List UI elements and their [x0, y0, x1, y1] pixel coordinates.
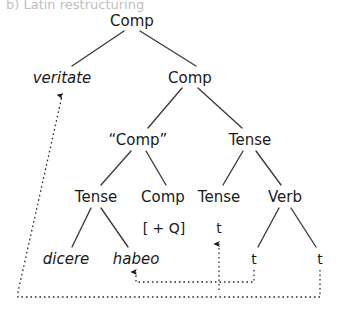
tree-node-tense-l1: Tense: [75, 190, 117, 205]
tree-node-tense-l2: Tense: [198, 190, 240, 205]
tree-node-trace-verb-1: t: [251, 252, 257, 266]
tree-node-comp-root: Comp: [110, 14, 154, 29]
tree-branch: [256, 151, 281, 185]
tree-branch: [148, 88, 182, 128]
tree-node-verb: Verb: [268, 190, 302, 205]
tree-branch: [101, 151, 131, 185]
tree-node-veritate: veritate: [33, 71, 92, 86]
tree-branch: [291, 208, 316, 247]
tree-branch: [223, 151, 243, 185]
tree-node-trace-verb-2: t: [317, 252, 323, 266]
tree-branch: [72, 31, 124, 66]
tree-node-feature-q: [ + Q]: [143, 221, 186, 235]
tree-node-comp-2: Comp: [168, 71, 212, 86]
tree-lines-svg: [0, 0, 340, 317]
tree-branch: [140, 31, 196, 66]
tree-branch: [258, 208, 279, 247]
tree-node-dicere: dicere: [43, 252, 90, 267]
tree-node-comp-quoted: “Comp”: [109, 133, 168, 148]
tree-branch: [72, 208, 91, 247]
tree-node-habeo: habeo: [113, 252, 160, 267]
movement-arrow: [136, 270, 254, 282]
tree-node-trace-tense: t: [216, 221, 222, 235]
tree-branch: [198, 88, 242, 128]
tree-node-tense-right: Tense: [229, 133, 271, 148]
tree-branch: [101, 208, 128, 247]
syntax-tree-figure: b) Latin restructuring CompveritateComp“…: [0, 0, 340, 317]
tree-node-comp-l1: Comp: [141, 190, 185, 205]
tree-branch: [146, 151, 166, 185]
